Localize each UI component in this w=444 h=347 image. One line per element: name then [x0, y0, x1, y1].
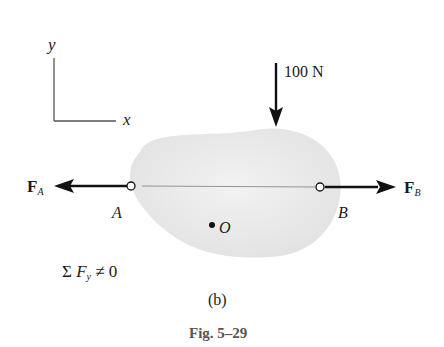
- x-axis-label: x: [123, 111, 131, 128]
- pin-b: [316, 183, 324, 191]
- force-a-arrow: [54, 179, 128, 193]
- figure-caption: Fig. 5–29: [189, 326, 247, 341]
- force-symbol: F: [76, 262, 86, 281]
- force-b-symbol: F: [404, 178, 414, 197]
- force-a-label: FA: [27, 178, 44, 197]
- force-a-subscript: A: [37, 186, 43, 197]
- y-axis-label: y: [48, 36, 56, 53]
- force-a-symbol: F: [27, 177, 37, 196]
- applied-force-arrow: [269, 63, 283, 127]
- point-o-label: O: [219, 220, 231, 236]
- force-b-subscript: B: [414, 187, 420, 198]
- point-o: [209, 222, 215, 228]
- coordinate-axes: [54, 58, 116, 121]
- point-a-label: A: [112, 205, 122, 221]
- applied-force-label: 100 N: [284, 64, 324, 80]
- sigma-symbol: Σ: [62, 262, 72, 281]
- force-b-label: FB: [404, 179, 421, 198]
- subfigure-label: (b): [208, 292, 227, 308]
- pin-a: [127, 182, 135, 190]
- rigid-body: [130, 128, 341, 257]
- equation-rhs: ≠ 0: [91, 262, 117, 281]
- equilibrium-equation: Σ Fy ≠ 0: [62, 263, 117, 282]
- point-b-label: B: [338, 205, 348, 221]
